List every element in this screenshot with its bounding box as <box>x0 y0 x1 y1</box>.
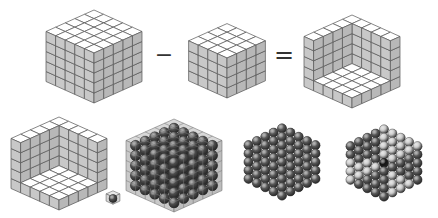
equals-sign: = <box>274 41 294 69</box>
cube-difference-diagram: − = <box>0 0 438 218</box>
minus-sign: − <box>155 42 173 67</box>
medium-cube-4x4x4 <box>189 24 266 98</box>
sphere-hexagon <box>244 124 320 200</box>
unit-cube-with-sphere <box>106 191 120 204</box>
sphere-filled-cube <box>126 119 222 212</box>
sphere-hexagon-split <box>346 125 422 201</box>
diagram-canvas: − = Centered hexagonal numbers as differ… <box>0 0 438 218</box>
result-shell-shape <box>304 15 400 108</box>
shell-shape-lower <box>11 117 107 210</box>
large-cube-5x5x5 <box>46 10 142 103</box>
